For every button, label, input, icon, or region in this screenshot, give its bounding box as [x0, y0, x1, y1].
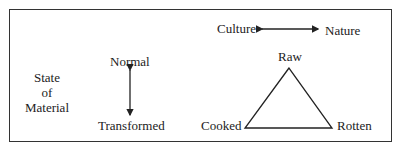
raw-label: Raw [278, 50, 302, 64]
cooked-label: Cooked [201, 119, 241, 133]
culture-label: Culture [217, 22, 256, 36]
transformed-label: Transformed [98, 119, 165, 133]
state-label-line1: State [26, 71, 68, 85]
culinary-triangle [245, 68, 332, 128]
nature-label: Nature [325, 24, 360, 38]
state-label-line2: of [26, 86, 68, 100]
normal-label: Normal [110, 55, 150, 69]
rotten-label: Rotten [337, 119, 372, 133]
state-label-line3: Material [22, 101, 72, 115]
